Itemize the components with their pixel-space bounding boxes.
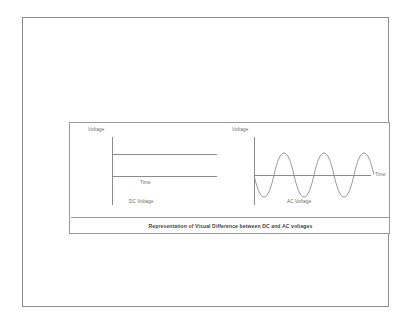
caption-divider (71, 217, 390, 218)
ac-voltage-panel: Voltage Time AC Voltage (230, 123, 389, 218)
dc-voltage-panel: Voltage Time DC Voltage (70, 123, 230, 218)
dc-voltage-axis-line (112, 137, 113, 205)
dc-time-axis-line (112, 176, 217, 177)
dc-voltage-panel-title: DC Voltage (129, 200, 154, 205)
screenshot-root: Voltage Time DC Voltage Voltage Time AC … (0, 0, 413, 331)
figure-container: Voltage Time DC Voltage Voltage Time AC … (69, 122, 390, 234)
ac-sine-waveform (254, 145, 374, 205)
ac-time-axis-label: Time (375, 173, 386, 178)
ac-voltage-axis-label: Voltage (232, 128, 248, 133)
dc-voltage-axis-label: Voltage (88, 128, 104, 133)
ac-voltage-panel-title: AC Voltage (287, 200, 311, 205)
document-page: Voltage Time DC Voltage Voltage Time AC … (22, 17, 389, 307)
figure-caption: Representation of Visual Difference betw… (70, 223, 391, 229)
dc-voltage-level-line (112, 154, 217, 155)
dc-time-axis-label: Time (140, 181, 151, 186)
